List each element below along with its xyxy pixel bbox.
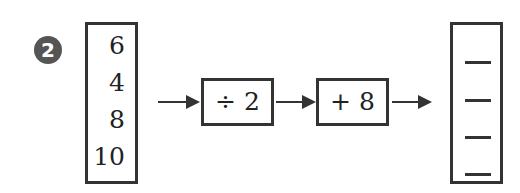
answer-blank[interactable] [465,173,491,176]
input-value: 6 [109,32,125,60]
output-column-box [450,22,503,184]
answer-blank[interactable] [465,61,491,64]
input-value: 8 [109,106,125,134]
arrow-icon [392,101,430,103]
input-value: 10 [93,143,125,171]
input-column-box: 6 4 8 10 [85,22,138,184]
arrow-icon [276,101,314,103]
answer-blank[interactable] [465,136,491,139]
problem-number-badge: 2 [34,36,62,64]
arrow-icon [158,101,198,103]
input-value: 4 [109,69,125,97]
answer-blank[interactable] [465,99,491,102]
operation-divide-box: ÷ 2 [201,78,274,126]
operation-add-box: + 8 [316,78,389,126]
